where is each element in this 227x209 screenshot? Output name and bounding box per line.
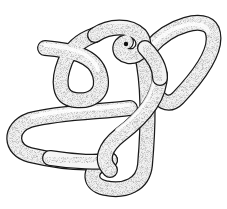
knot-drawing: [0, 0, 227, 209]
knot-illustration: [0, 0, 227, 209]
curl-hole: [124, 42, 128, 46]
tube-strand-d-loop: [45, 35, 101, 100]
tube-strand-top-curl: [95, 28, 143, 57]
